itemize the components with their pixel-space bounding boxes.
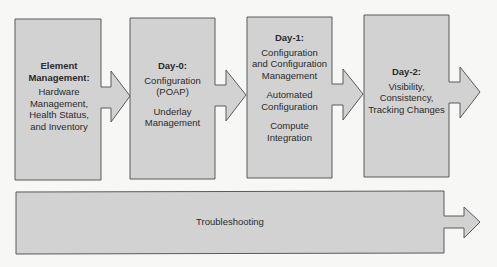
stage-day2: Day-2: Visibility, Consistency, Tracking… <box>364 66 449 115</box>
stage-text: Health Status, <box>17 109 101 121</box>
stage-text: Visibility, <box>364 81 449 93</box>
spacer <box>247 112 332 120</box>
stage-text: Configuration <box>247 101 332 113</box>
stage-text: Management <box>247 70 332 82</box>
stage-title: Element <box>17 60 101 72</box>
stage-text: Tracking Changes <box>364 104 449 116</box>
stage-text: Compute <box>247 120 332 132</box>
stage-text: Hardware <box>17 86 101 98</box>
stage-text: Integration <box>247 132 332 144</box>
stage-text: and Inventory <box>17 121 101 133</box>
stage-text: Underlay <box>130 106 215 118</box>
stage-text: Management <box>130 117 215 129</box>
troubleshooting-label: Troubleshooting <box>16 216 444 228</box>
stage-text: Configuration <box>130 75 215 87</box>
stage-text: Management, <box>17 98 101 110</box>
stage-title: Day-2: <box>364 66 449 78</box>
stage-text: Automated <box>247 89 332 101</box>
stage-title: Day-0: <box>130 60 215 72</box>
spacer <box>247 81 332 89</box>
stage-element-management: Element Management: Hardware Management,… <box>17 60 101 132</box>
stage-title: Day-1: <box>247 32 332 44</box>
stage-day1: Day-1: Configuration and Configuration M… <box>247 32 332 143</box>
spacer <box>130 98 215 106</box>
stage-title: Management: <box>17 72 101 84</box>
stage-day0: Day-0: Configuration (POAP) Underlay Man… <box>130 60 215 129</box>
troubleshooting-text: Troubleshooting <box>16 216 444 228</box>
stage-text: Consistency, <box>364 92 449 104</box>
stage-text: and Configuration <box>247 58 332 70</box>
stage-text: (POAP) <box>130 86 215 98</box>
stage-text: Configuration <box>247 47 332 59</box>
